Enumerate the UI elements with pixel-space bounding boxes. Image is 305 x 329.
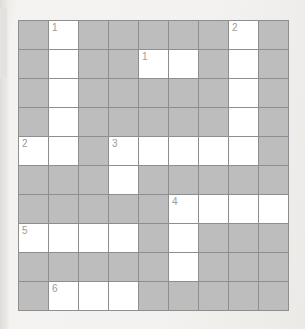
crossword-cell-open[interactable] [229, 195, 259, 224]
crossword-cell-open[interactable] [169, 224, 199, 253]
crossword-cell-open[interactable] [169, 137, 199, 166]
crossword-cell-block [139, 224, 169, 253]
crossword-cell-open[interactable] [109, 224, 139, 253]
crossword-cell-block [259, 108, 289, 137]
crossword-cell-open[interactable] [199, 137, 229, 166]
crossword-cell-open[interactable]: 5 [19, 224, 49, 253]
crossword-clue-number: 3 [112, 138, 118, 149]
crossword-clue-number: 1 [142, 51, 148, 62]
crossword-cell-block [259, 137, 289, 166]
crossword-cell-open[interactable]: 2 [19, 137, 49, 166]
crossword-cell-open[interactable] [79, 282, 109, 311]
crossword-cell-open[interactable]: 2 [229, 21, 259, 50]
crossword-cell-block [139, 166, 169, 195]
crossword-cell-open[interactable] [229, 137, 259, 166]
crossword-cell-block [139, 282, 169, 311]
crossword-cell-open[interactable]: 6 [49, 282, 79, 311]
crossword-row [19, 253, 289, 282]
crossword-cell-block [199, 79, 229, 108]
crossword-cell-block [169, 79, 199, 108]
crossword-cell-block [259, 50, 289, 79]
crossword-clue-number: 2 [232, 22, 238, 33]
crossword-cell-open[interactable] [229, 79, 259, 108]
crossword-cell-block [19, 166, 49, 195]
crossword-cell-open[interactable]: 3 [109, 137, 139, 166]
crossword-cell-block [79, 195, 109, 224]
crossword-cell-open[interactable] [49, 108, 79, 137]
crossword-cell-block [199, 224, 229, 253]
crossword-cell-open[interactable] [109, 282, 139, 311]
crossword-grid[interactable]: 12123456 [18, 20, 289, 311]
crossword-cell-open[interactable] [79, 224, 109, 253]
crossword-cell-block [79, 137, 109, 166]
crossword-cell-block [169, 282, 199, 311]
crossword-cell-open[interactable]: 1 [139, 50, 169, 79]
crossword-clue-number: 4 [172, 196, 178, 207]
crossword-cell-open[interactable] [259, 195, 289, 224]
crossword-cell-block [139, 253, 169, 282]
crossword-row: 4 [19, 195, 289, 224]
crossword-cell-block [229, 224, 259, 253]
crossword-cell-block [229, 253, 259, 282]
crossword-cell-open[interactable]: 1 [49, 21, 79, 50]
crossword-cell-block [199, 166, 229, 195]
crossword-cell-open[interactable] [109, 166, 139, 195]
crossword-row [19, 166, 289, 195]
crossword-row: 6 [19, 282, 289, 311]
crossword-row: 5 [19, 224, 289, 253]
crossword-cell-block [169, 166, 199, 195]
crossword-cell-block [19, 253, 49, 282]
crossword-row [19, 79, 289, 108]
crossword-cell-block [49, 166, 79, 195]
crossword-cell-block [169, 108, 199, 137]
crossword-cell-block [19, 108, 49, 137]
crossword-cell-block [79, 166, 109, 195]
crossword-cell-block [19, 195, 49, 224]
crossword-cell-open[interactable] [199, 195, 229, 224]
crossword-cell-block [109, 79, 139, 108]
crossword-cell-block [79, 50, 109, 79]
crossword-cell-open[interactable] [169, 253, 199, 282]
crossword-cell-block [199, 50, 229, 79]
crossword-puzzle: 12123456 [18, 20, 289, 311]
crossword-cell-block [19, 79, 49, 108]
crossword-cell-block [109, 50, 139, 79]
crossword-cell-block [229, 282, 259, 311]
crossword-cell-open[interactable] [49, 79, 79, 108]
crossword-cell-block [79, 79, 109, 108]
crossword-cell-open[interactable] [229, 50, 259, 79]
crossword-cell-open[interactable] [49, 50, 79, 79]
crossword-cell-open[interactable] [49, 137, 79, 166]
crossword-row [19, 108, 289, 137]
crossword-cell-block [79, 108, 109, 137]
crossword-cell-block [19, 50, 49, 79]
crossword-cell-block [259, 253, 289, 282]
crossword-cell-open[interactable] [169, 50, 199, 79]
crossword-cell-block [259, 224, 289, 253]
crossword-cell-block [79, 21, 109, 50]
crossword-cell-block [259, 166, 289, 195]
crossword-grid-body: 12123456 [19, 21, 289, 311]
crossword-cell-block [199, 108, 229, 137]
crossword-cell-block [139, 108, 169, 137]
crossword-cell-block [139, 195, 169, 224]
crossword-cell-block [19, 282, 49, 311]
crossword-cell-open[interactable]: 4 [169, 195, 199, 224]
crossword-row: 12 [19, 21, 289, 50]
crossword-cell-open[interactable] [49, 224, 79, 253]
crossword-row: 23 [19, 137, 289, 166]
crossword-cell-block [109, 21, 139, 50]
crossword-cell-block [109, 253, 139, 282]
crossword-cell-block [259, 21, 289, 50]
crossword-cell-open[interactable] [229, 108, 259, 137]
crossword-cell-block [229, 166, 259, 195]
crossword-cell-open[interactable] [139, 137, 169, 166]
crossword-clue-number: 5 [22, 225, 28, 236]
crossword-clue-number: 1 [52, 22, 58, 33]
crossword-cell-block [109, 108, 139, 137]
crossword-cell-block [79, 253, 109, 282]
crossword-cell-block [109, 195, 139, 224]
crossword-clue-number: 6 [52, 283, 58, 294]
crossword-cell-block [199, 253, 229, 282]
crossword-cell-block [49, 195, 79, 224]
